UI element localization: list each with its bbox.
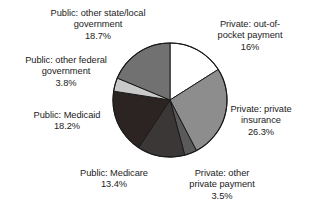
pie-label-medicaid: Public: Medicaid 18.2% (10, 110, 124, 133)
pie-chart-figure: Public: other state/local government 18.… (0, 0, 313, 213)
pie-label-private-insurance: Private: private insurance 26.3% (212, 104, 310, 138)
pie-slice-group (113, 43, 227, 157)
pie-label-out-of-pocket-payment: Private: out-of- pocket payment 16% (196, 19, 304, 53)
pie-label-medicare: Public: Medicare 13.4% (62, 168, 166, 191)
pie-label-other-federal-government: Public: other federal government 3.8% (2, 55, 130, 89)
pie-label-other-state-local-government: Public: other state/local government 18.… (28, 8, 168, 42)
pie-label-other-private-payment: Private: other private payment 3.5% (172, 168, 272, 202)
